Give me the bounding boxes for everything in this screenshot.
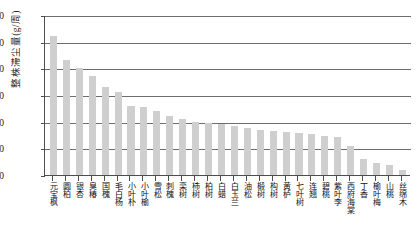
bar-slot [125,15,138,175]
y-axis-tick-label: 50 [0,144,4,154]
x-axis-tick-label: 黄栌 [281,182,289,198]
x-tick-slot [175,176,188,181]
x-tick-slot [279,176,292,181]
x-axis-tick-label: 元宝枫 [48,182,56,206]
x-axis-tick-mark [297,176,298,181]
x-tick-slot [111,176,124,181]
x-axis-tick-mark [117,176,118,181]
x-tick-slot [201,176,214,181]
x-axis-tick-mark [207,176,208,181]
y-axis-tick-label: 200 [0,64,4,74]
x-axis-tick-mark [194,176,195,181]
bar [179,119,186,175]
bar [102,87,109,175]
bar-slot [176,15,189,175]
y-axis-tick-mark [41,149,45,150]
bar [321,136,328,175]
bar [283,132,290,175]
x-axis-tick-mark [375,176,376,181]
y-axis-tick-label: 100 [0,118,4,128]
bar-slot [137,15,150,175]
bar-slot [215,15,228,175]
bar [373,163,380,175]
x-tick-slot [343,176,356,181]
bar [295,133,302,175]
x-label-slot: 小叶朴 [124,182,137,240]
x-label-slot: 雪松 [149,182,162,240]
x-axis-tick-label: 山桃 [384,182,392,198]
x-label-slot: 紫叶李 [330,182,343,240]
x-axis-tick-label: 丝绵木 [397,182,405,206]
bar-slot [383,15,396,175]
x-axis-tick-label: 柏树 [203,182,211,198]
x-axis-tick-mark [349,176,350,181]
bar-slot [47,15,60,175]
x-label-slot: 七叶树 [292,182,305,240]
x-axis-tick-label: 白蜡 [216,182,224,198]
bar-slot [318,15,331,175]
bar [140,107,147,175]
bar-slot [150,15,163,175]
bar [399,170,406,175]
x-tick-slot [317,176,330,181]
x-tick-slot [369,176,382,181]
bar-slot [112,15,125,175]
x-tick-slot [227,176,240,181]
x-tick-slot [382,176,395,181]
x-axis-tick-mark [65,176,66,181]
x-label-slot: 油松 [240,182,253,240]
bar [166,116,173,175]
x-axis-tick-label: 丁香 [358,182,366,198]
x-axis-tick-mark [323,176,324,181]
x-axis-tick-mark [78,176,79,181]
bar [386,165,393,175]
x-axis-tick-label: 雪松 [152,182,160,198]
x-label-slot: 毛白杨 [111,182,124,240]
bar-slot [280,15,293,175]
x-axis-tick-mark [91,176,92,181]
bar [115,92,122,175]
x-tick-slot [253,176,266,181]
x-label-slot: 栾树 [175,182,188,240]
x-axis-tick-label: 七叶树 [294,182,302,206]
bar-series [45,15,411,175]
y-axis-tick-mark [41,123,45,124]
x-tick-slot [72,176,85,181]
x-label-slot: 白蜡 [214,182,227,240]
x-axis-tick-mark [233,176,234,181]
x-label-slot: 银杏 [72,182,85,240]
x-axis-tick-mark [168,176,169,181]
x-tick-slot [59,176,72,181]
x-label-slot: 元宝枫 [46,182,59,240]
x-tick-slot [98,176,111,181]
x-axis-tick-label: 小叶榆 [139,182,147,206]
x-axis-tick-mark [246,176,247,181]
bar [270,131,277,175]
bar-slot [370,15,383,175]
bar-slot [202,15,215,175]
y-axis-tick-label: 250 [0,38,4,48]
x-tick-slot [162,176,175,181]
x-axis-tick-label: 油松 [242,182,250,198]
x-axis-tick-label: 小叶朴 [126,182,134,206]
x-axis-tick-mark [285,176,286,181]
x-axis-tick-mark [388,176,389,181]
x-axis-tick-mark [259,176,260,181]
x-tick-slot [266,176,279,181]
x-axis-tick-label: 碧桃 [320,182,328,198]
x-label-slot: 柿树 [188,182,201,240]
x-axis-tick-mark [52,176,53,181]
bar-slot [267,15,280,175]
x-tick-slot [136,176,149,181]
x-tick-slot [240,176,253,181]
x-axis-tick-marks [44,176,410,181]
x-tick-slot [395,176,408,181]
x-label-slot: 山桃 [382,182,395,240]
bar-slot [163,15,176,175]
x-axis-tick-label: 臭椿 [87,182,95,198]
x-label-slot: 西府海棠 [343,182,356,240]
x-axis-tick-label: 西府海棠 [345,182,353,214]
x-tick-slot [46,176,59,181]
x-label-slot: 碧桃 [317,182,330,240]
bar-slot [86,15,99,175]
